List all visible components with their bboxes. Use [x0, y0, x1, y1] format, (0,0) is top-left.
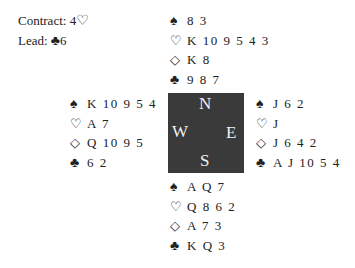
lead-line: Lead: ♣6 — [18, 33, 67, 49]
contract-line: Contract: 4♡ — [18, 12, 89, 29]
west-diamonds: ◇Q 10 9 5 — [70, 133, 157, 153]
north-hearts: ♡K 10 9 5 4 3 — [170, 31, 270, 51]
south-spades: ♠A Q 7 — [170, 177, 236, 197]
spade-icon: ♠ — [170, 177, 187, 197]
south-hand: ♠A Q 7 ♡Q 8 6 2 ◇A 7 3 ♣K Q 3 — [170, 177, 236, 255]
north-spades: ♠8 3 — [170, 11, 270, 31]
south-hearts: ♡Q 8 6 2 — [170, 197, 236, 217]
compass-west: W — [172, 122, 188, 142]
compass-box: N W E S — [168, 93, 244, 173]
compass-north: N — [199, 94, 211, 114]
club-icon: ♣ — [51, 33, 60, 48]
west-spades: ♠K 10 9 5 4 — [70, 94, 157, 114]
east-hearts: ♡J — [256, 114, 341, 134]
heart-icon: ♡ — [170, 31, 187, 51]
spade-icon: ♠ — [70, 94, 87, 114]
lead-card: 6 — [60, 33, 67, 48]
north-clubs: ♣9 8 7 — [170, 70, 270, 90]
heart-icon: ♡ — [256, 114, 273, 134]
spade-icon: ♠ — [256, 94, 273, 114]
north-hand: ♠8 3 ♡K 10 9 5 4 3 ◇K 8 ♣9 8 7 — [170, 11, 270, 89]
spade-icon: ♠ — [170, 11, 187, 31]
east-spades: ♠J 6 2 — [256, 94, 341, 114]
club-icon: ♣ — [256, 153, 273, 173]
south-clubs: ♣K Q 3 — [170, 236, 236, 256]
diamond-icon: ◇ — [170, 216, 187, 236]
heart-icon: ♡ — [76, 13, 89, 28]
compass-east: E — [226, 123, 236, 143]
east-hand: ♠J 6 2 ♡J ◇J 6 4 2 ♣A J 10 5 4 — [256, 94, 341, 172]
diamond-icon: ◇ — [70, 133, 87, 153]
club-icon: ♣ — [170, 236, 187, 256]
east-diamonds: ◇J 6 4 2 — [256, 133, 341, 153]
west-clubs: ♣6 2 — [70, 153, 157, 173]
heart-icon: ♡ — [170, 197, 187, 217]
heart-icon: ♡ — [70, 114, 87, 134]
west-hand: ♠K 10 9 5 4 ♡A 7 ◇Q 10 9 5 ♣6 2 — [70, 94, 157, 172]
club-icon: ♣ — [170, 70, 187, 90]
contract-label: Contract: 4 — [18, 13, 76, 28]
lead-label: Lead: — [18, 33, 51, 48]
compass-south: S — [200, 151, 209, 171]
south-diamonds: ◇A 7 3 — [170, 216, 236, 236]
east-clubs: ♣A J 10 5 4 — [256, 153, 341, 173]
diamond-icon: ◇ — [170, 50, 187, 70]
north-diamonds: ◇K 8 — [170, 50, 270, 70]
club-icon: ♣ — [70, 153, 87, 173]
diamond-icon: ◇ — [256, 133, 273, 153]
west-hearts: ♡A 7 — [70, 114, 157, 134]
